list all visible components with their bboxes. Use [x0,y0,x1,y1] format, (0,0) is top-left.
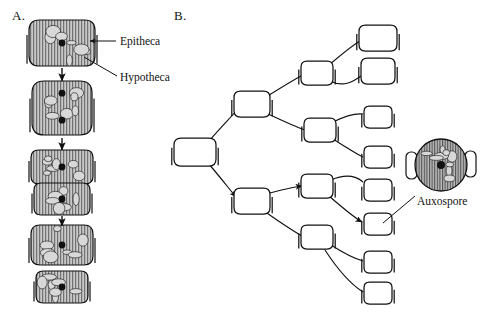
stage-3-cytokinesis-cell [32,183,92,215]
cytoplasm-blob [421,151,432,155]
panel-b-link-group [208,41,363,292]
cell-gen3-g [362,251,394,273]
nucleus [59,164,66,171]
cytoplasm-blob [46,112,60,119]
cell-gen2-a [299,61,335,85]
figure-svg [0,0,481,313]
panel-a-cell-group [27,20,97,303]
cytoplasm-blob [72,106,79,116]
stage-4-daughter-cells-cell [34,271,90,303]
cell-outline [364,282,392,304]
cell-outline [234,188,270,214]
cell-outline [359,25,397,51]
link-g1b-g2c [266,186,302,194]
cytoplasm-blob [444,175,455,182]
cell-outline [234,91,270,117]
cell-gen3-b [359,58,397,84]
cytoplasm-blob [37,276,47,289]
cytoplasm-blob [44,96,57,105]
cytoplasm-blob [70,289,82,294]
nucleus [59,284,66,291]
cytoplasm-blob [44,156,52,162]
cell-outline [301,61,333,85]
cytoplasm-blob [71,93,78,101]
cell-gen3-d [362,146,394,168]
cell-gen3-c [362,106,394,128]
link-g0-g1b [208,163,236,197]
link-g2d-g3h [325,250,363,292]
cell-gen3-e [362,179,394,201]
cell-gen3-f [362,213,394,235]
cell-gen3-h [362,282,394,304]
cell-gen2-d [299,225,335,249]
cytoplasm-blob [40,241,54,250]
stage-2-nuclear-division-cell [30,81,94,135]
stage-1-parent-cell-cell [27,20,97,66]
cytoplasm-blob [68,252,82,258]
cytoplasm-blob [74,44,89,55]
cytoplasm-blob [53,202,65,214]
cytoplasm-blob [67,41,76,45]
link-g2c-g3f [329,196,362,222]
cell-gen1-upper [232,91,272,117]
cell-outline [364,146,392,168]
cell-gen2-c [299,174,335,198]
cell-outline [361,58,395,84]
nucleus [59,40,66,47]
nucleus [59,196,66,203]
cell-outline [364,251,392,273]
cell-gen2-b [302,118,338,142]
cell-outline [301,225,333,249]
cytoplasm-blob [53,226,61,232]
cytoplasm-blob [78,234,89,246]
cell-outline [301,174,333,198]
cell-outline [304,118,336,142]
cytoplasm-blob [443,150,450,156]
cell-gen3-a [357,25,399,51]
nucleus [59,90,66,97]
cytoplasm-blob [68,160,78,168]
cytoplasm-blob [73,193,79,206]
cytoplasm-blob [56,32,68,40]
cytoplasm-blob [446,162,454,167]
nucleus-second [59,117,66,124]
cell-gen1-lower [232,188,272,214]
cytoplasm-blob [67,55,73,66]
nucleus [59,242,66,249]
link-g1b-g2d [264,211,302,236]
link-g1a-g2a [266,75,303,97]
hypotheca-leader [84,57,117,76]
stage-4-daughter-cells-cell [29,225,95,265]
cell-outline [364,213,392,235]
cell-body [32,81,92,135]
auxospore-group [406,139,476,191]
link-g0-g1a [209,110,237,141]
link-g2c-g3e [331,176,363,182]
figure-canvas: A. B. Epitheca Hypotheca Auxospore [0,0,481,313]
cytoplasm-blob [73,171,85,181]
panel-b-cell-group [172,25,399,304]
cell-outline [174,138,216,166]
link-g2b-g3c [333,114,363,122]
stage-3-cytokinesis-cell [29,150,95,184]
link-g2a-g3a [329,41,360,65]
cell-outline [364,106,392,128]
cell-outline [364,179,392,201]
cell-gen0 [172,138,218,166]
cytoplasm-blob [429,155,443,160]
link-g2b-g3d [333,139,363,157]
auxospore-nucleus [437,161,445,169]
cytoplasm-blob [43,251,58,263]
